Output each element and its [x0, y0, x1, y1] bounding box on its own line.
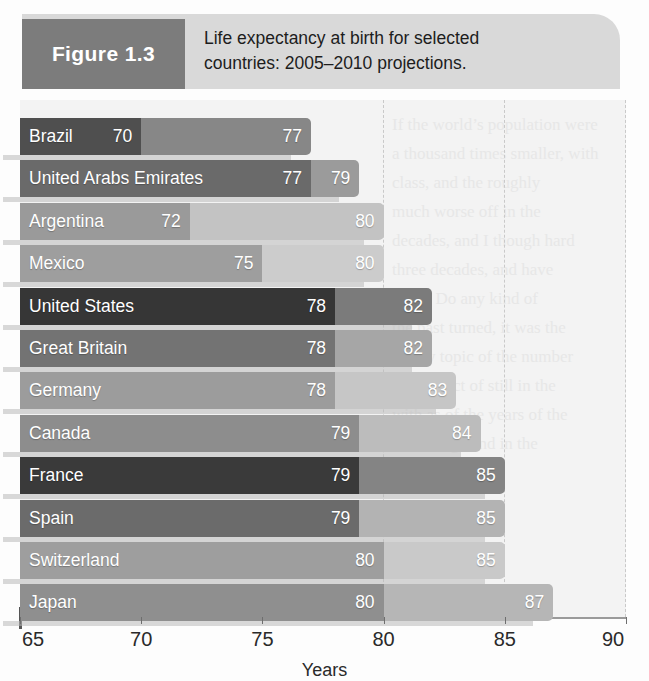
tick-85 — [505, 617, 506, 624]
bar-shadow — [3, 452, 461, 457]
bar-value-female: 85 — [476, 457, 504, 494]
bar-row-germany[interactable]: Germany7883 — [20, 372, 456, 409]
bar-shadow — [3, 155, 291, 160]
bar-country-label: Switzerland — [29, 542, 119, 579]
tick-label-75: 75 — [251, 628, 273, 651]
tick-90 — [626, 617, 627, 624]
tick-label-65: 65 — [22, 628, 44, 651]
bar-value-male: 70 — [113, 118, 141, 155]
bar-value-female: 85 — [476, 500, 504, 537]
bar-value-male: 72 — [161, 203, 189, 240]
bleed-line: class, and the roughly — [392, 168, 642, 197]
bar-value-female: 82 — [404, 288, 432, 325]
gridline-90 — [625, 100, 626, 617]
bar-row-united-states[interactable]: United States7882 — [20, 288, 432, 325]
bleed-line: If the world’s population were — [392, 110, 642, 139]
caption-line-1: Life expectancy at birth for selected — [204, 26, 604, 51]
bar-country-label: United Arabs Emirates — [29, 160, 203, 197]
bar-row-france[interactable]: France7985 — [20, 457, 505, 494]
tick-70 — [141, 617, 142, 624]
bar-value-female: 85 — [476, 542, 504, 579]
bar-value-male: 80 — [355, 584, 383, 621]
bar-shadow — [3, 240, 364, 245]
tick-label-85: 85 — [494, 628, 516, 651]
bar-country-label: Japan — [29, 584, 77, 621]
bar-value-female: 83 — [428, 372, 456, 409]
bar-shadow — [3, 579, 485, 584]
tick-75 — [262, 617, 263, 624]
figure-number-label: Figure 1.3 — [52, 42, 155, 66]
bleed-line: decades, and I though hard — [392, 226, 642, 255]
bar-country-label: Mexico — [29, 245, 84, 282]
gridline-85 — [504, 100, 505, 617]
bar-value-female: 80 — [355, 203, 383, 240]
bar-row-canada[interactable]: Canada7984 — [20, 415, 481, 452]
x-axis-label: Years — [0, 660, 649, 681]
bar-row-brazil[interactable]: Brazil7077 — [20, 118, 311, 155]
bar-shadow — [3, 197, 339, 202]
bar-value-female: 79 — [331, 160, 359, 197]
figure-number-badge: Figure 1.3 — [22, 19, 185, 89]
bar-shadow — [3, 367, 412, 372]
tick-65 — [20, 617, 21, 624]
bar-row-argentina[interactable]: Argentina7280 — [20, 203, 384, 240]
bleed-line: much worse off in the — [392, 197, 642, 226]
bar-value-male: 79 — [331, 500, 359, 537]
bleed-line: a thousand times smaller, with — [392, 139, 642, 168]
bar-country-label: Argentina — [29, 203, 104, 240]
bar-country-label: Canada — [29, 415, 90, 452]
bar-value-male: 80 — [355, 542, 383, 579]
bar-shadow — [3, 621, 533, 626]
bar-country-label: Germany — [29, 372, 101, 409]
bar-country-label: United States — [29, 288, 134, 325]
bar-value-male: 75 — [234, 245, 262, 282]
bar-row-united-arabs-emirates[interactable]: United Arabs Emirates7779 — [20, 160, 359, 197]
bar-value-female: 82 — [404, 330, 432, 367]
bar-row-spain[interactable]: Spain7985 — [20, 500, 505, 537]
bar-shadow — [3, 325, 412, 330]
bleed-line: three decades, and have — [392, 255, 642, 284]
bar-value-male: 79 — [331, 457, 359, 494]
bar-row-mexico[interactable]: Mexico7580 — [20, 245, 384, 282]
bar-country-label: Spain — [29, 500, 74, 537]
bar-value-female: 84 — [452, 415, 480, 452]
bar-shadow — [3, 409, 436, 414]
bar-country-label: Great Britain — [29, 330, 127, 367]
figure-page: Figure 1.3 Life expectancy at birth for … — [0, 0, 649, 681]
tick-label-80: 80 — [372, 628, 394, 651]
caption-line-2: countries: 2005–2010 projections. — [204, 51, 604, 76]
bar-value-female: 87 — [525, 584, 553, 621]
figure-caption-band: Figure 1.3 Life expectancy at birth for … — [22, 14, 620, 89]
bar-value-male: 78 — [307, 330, 335, 367]
bar-value-male: 79 — [331, 415, 359, 452]
tick-80 — [384, 617, 385, 624]
bar-value-female: 80 — [355, 245, 383, 282]
bar-value-male: 78 — [307, 372, 335, 409]
bar-row-great-britain[interactable]: Great Britain7882 — [20, 330, 432, 367]
bar-value-female: 77 — [282, 118, 310, 155]
bar-shadow — [3, 282, 364, 287]
figure-caption-text: Life expectancy at birth for selected co… — [204, 26, 604, 76]
bar-row-japan[interactable]: Japan8087 — [20, 584, 553, 621]
chart-plot-area: If the world’s population werea thousand… — [0, 100, 649, 620]
tick-label-70: 70 — [130, 628, 152, 651]
tick-label-90: 90 — [602, 628, 624, 651]
bar-value-male: 77 — [282, 160, 310, 197]
bar-shadow — [3, 494, 485, 499]
bar-value-male: 78 — [307, 288, 335, 325]
bar-row-switzerland[interactable]: Switzerland8085 — [20, 542, 505, 579]
bar-country-label: France — [29, 457, 83, 494]
bar-shadow — [3, 537, 485, 542]
bar-country-label: Brazil — [29, 118, 73, 155]
